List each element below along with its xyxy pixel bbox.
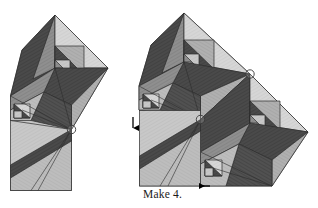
block-b-lownest-2 bbox=[205, 168, 213, 176]
pivot-circle-left-unit bbox=[67, 125, 75, 133]
diagram-stage: Make 4. bbox=[0, 0, 318, 208]
pivot-circle-right-lower bbox=[196, 115, 204, 123]
block-a-lownest-2 bbox=[143, 101, 151, 108]
lower-nest-square-2 bbox=[14, 111, 22, 118]
left-unit-tail-square bbox=[11, 121, 72, 191]
pivot-circle-right-upper bbox=[246, 70, 254, 78]
make-caption: Make 4. bbox=[143, 188, 182, 200]
folding-diagram-svg bbox=[0, 0, 318, 208]
right-unit-tail-square bbox=[140, 111, 201, 187]
